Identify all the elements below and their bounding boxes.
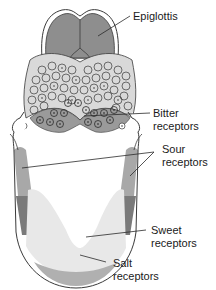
label-sweet-line1: Sweet (151, 224, 182, 236)
label-epiglottis: Epiglottis (133, 10, 178, 22)
label-sweet-line2: receptors (151, 237, 197, 249)
label-sour-line1: Sour (162, 143, 186, 155)
papillae-region (24, 54, 136, 121)
label-bitter-line1: Bitter (153, 107, 179, 119)
tongue-diagram: Epiglottis Bitter receptors Sour recepto… (0, 0, 216, 290)
label-sour-line2: receptors (162, 156, 208, 168)
epiglottis (42, 10, 119, 58)
labels: Epiglottis Bitter receptors Sour recepto… (113, 10, 208, 282)
label-bitter-line2: receptors (153, 120, 199, 132)
label-salt-line1: Salt (113, 257, 132, 269)
label-salt-line2: receptors (113, 270, 159, 282)
